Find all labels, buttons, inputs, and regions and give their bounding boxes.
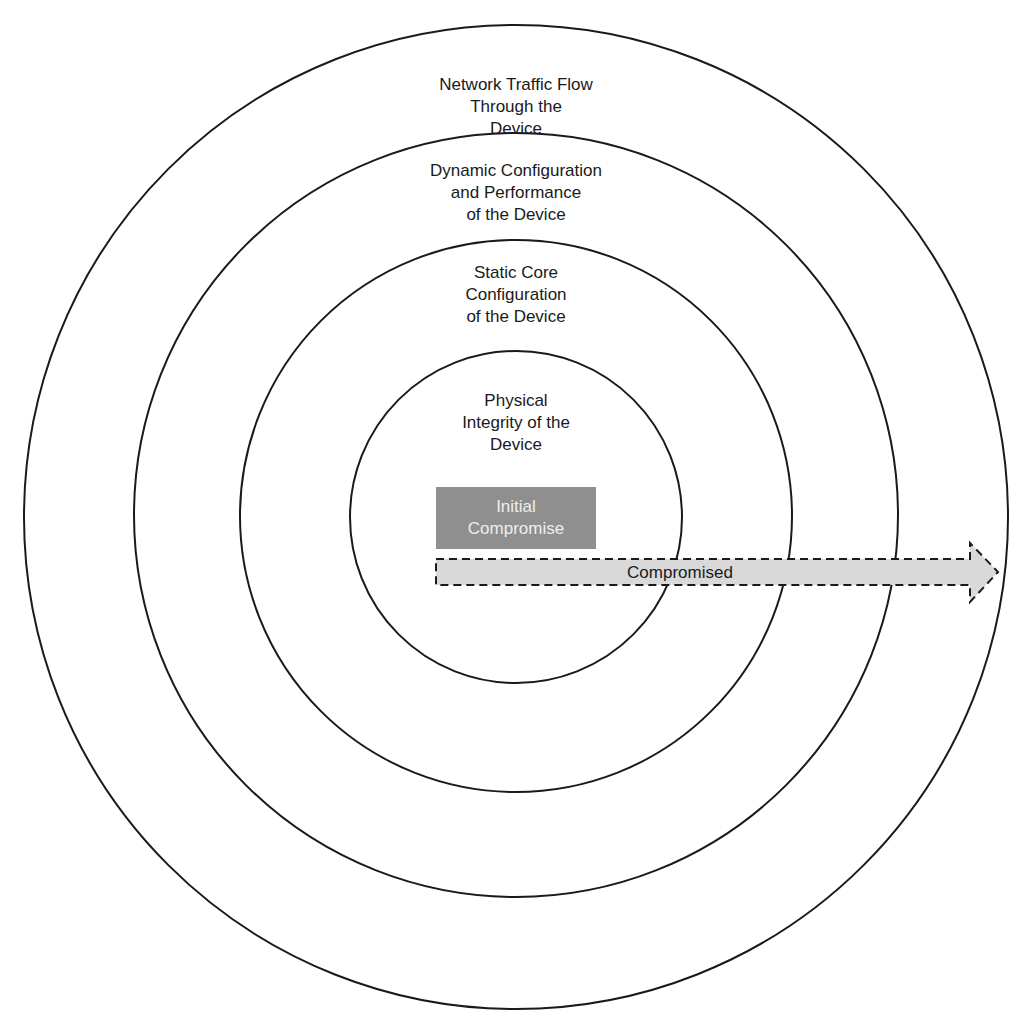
initial-compromise-box: Initial Compromise: [436, 487, 596, 549]
label-physical-integrity: Physical Integrity of the Device: [416, 390, 616, 456]
label-dynamic-configuration: Dynamic Configuration and Performance of…: [386, 160, 646, 226]
label-static-core: Static Core Configuration of the Device: [406, 262, 626, 328]
label-network-traffic: Network Traffic Flow Through the Device: [386, 74, 646, 140]
compromised-arrow-label: Compromised: [600, 563, 760, 583]
